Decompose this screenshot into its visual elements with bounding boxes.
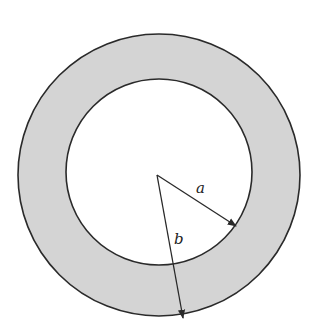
outer-radius-label: b — [174, 230, 184, 248]
inner-radius-label: a — [196, 179, 205, 197]
annulus-diagram: a b — [0, 0, 315, 335]
inner-circle — [66, 79, 252, 265]
